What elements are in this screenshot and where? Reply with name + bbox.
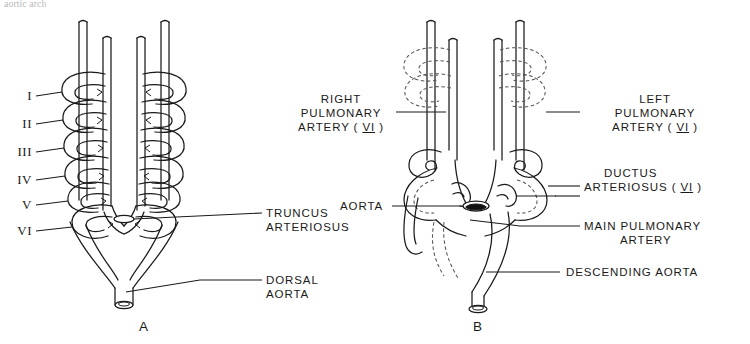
panel-b-drawing	[392, 21, 580, 313]
panel-a-truncus-arteriosus	[104, 206, 144, 234]
panel-a-arch-1-left	[62, 72, 105, 104]
panel-b-arch-4-right	[514, 168, 547, 220]
panel-a-internal-marks	[97, 89, 151, 228]
panel-b-regressed-arch-1-right	[500, 48, 546, 81]
left-pa-close-paren: )	[689, 121, 698, 133]
right-pa-close-paren: )	[375, 121, 384, 133]
ductus-numeral: VI	[680, 181, 693, 193]
panel-b-left-outer-tube	[449, 39, 457, 161]
truncus-arteriosus-label-line1: TRUNCUS	[266, 206, 329, 220]
truncus-arteriosus-label-line2: ARTERIOSUS	[266, 220, 350, 234]
panel-b-right-outer-tube	[494, 39, 502, 161]
arch-numeral-I: I	[8, 88, 32, 104]
panel-b-arch-3-right-curl	[510, 150, 542, 178]
left-pulmonary-artery-label-line1: LEFT	[596, 92, 714, 106]
panel-b-regressed-arch-2-right	[499, 74, 545, 107]
ductus-arteriosus-label-line2: ARTERIOSUS ( VI )	[584, 180, 702, 194]
left-pa-artery-text: ARTERY (	[612, 121, 676, 133]
panel-b-arch-3-left-curl	[409, 150, 441, 178]
right-pulmonary-artery-label-line2: PULMONARY	[288, 106, 394, 120]
arch-numeral-V: V	[8, 197, 32, 213]
ductus-arteriosus-text: ARTERIOSUS (	[584, 181, 680, 193]
descending-aorta-label: DESCENDING AORTA	[566, 265, 698, 279]
arch-numeral-II: II	[8, 116, 32, 132]
panel-a-drawing	[36, 21, 262, 309]
panel-a-dorsal-aorta-trunk	[70, 222, 178, 309]
panel-a-arch-1-right	[143, 72, 186, 104]
panel-b-aortic-sac	[436, 160, 515, 236]
dorsal-aorta-label-line1: DORSAL	[266, 273, 319, 287]
panel-b-regressed-arch-2-left	[405, 74, 451, 107]
panel-b-left-dorsal-aorta	[427, 21, 435, 171]
arch-numeral-VI: VI	[8, 223, 32, 239]
left-pulmonary-artery-label-line3: ARTERY ( VI )	[596, 120, 714, 134]
right-pa-numeral: VI	[362, 121, 375, 133]
right-pa-artery-text: ARTERY (	[298, 121, 362, 133]
panel-b-label-leaders	[392, 112, 580, 272]
left-pa-numeral: VI	[676, 121, 689, 133]
aortic-arch-development-figure: aortic arch .s { fill:none; stroke:#1a1a…	[0, 0, 750, 344]
panel-letter-a: A	[139, 319, 148, 334]
panel-a-numeral-leaders	[36, 92, 72, 231]
aorta-label: AORTA	[340, 199, 383, 213]
panel-b-regressed-left-distal	[432, 222, 458, 278]
right-pulmonary-artery-label-line1: RIGHT	[288, 92, 394, 106]
panel-letter-b: B	[473, 319, 482, 334]
arch-numeral-IV: IV	[8, 172, 32, 188]
left-pulmonary-artery-label-line2: PULMONARY	[596, 106, 714, 120]
panel-b-ductus-arteriosus	[497, 184, 516, 206]
ductus-arteriosus-label-line1: DUCTUS	[604, 166, 657, 180]
arch-numeral-III: III	[8, 144, 32, 160]
panel-a-label-leaders	[126, 213, 262, 292]
ductus-close-paren: )	[693, 181, 702, 193]
panel-b-left-subclavian-branch	[404, 196, 422, 254]
panel-b-right-dorsal-aorta	[516, 21, 524, 171]
dorsal-aorta-label-line2: AORTA	[266, 287, 309, 301]
main-pulmonary-artery-label-line2: ARTERY	[620, 233, 672, 247]
main-pulmonary-artery-label-line1: MAIN PULMONARY	[584, 219, 701, 233]
panel-b-descending-aorta	[469, 212, 509, 313]
panel-b-arch-4-left	[404, 168, 437, 220]
right-pulmonary-artery-label-line3: ARTERY ( VI )	[288, 120, 394, 134]
